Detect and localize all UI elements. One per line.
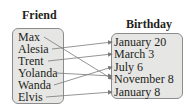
arrow-trent [48, 54, 112, 61]
arrow-wanda [54, 67, 112, 85]
arrow-elvis [46, 92, 112, 97]
arrow-alesia [52, 42, 112, 49]
mapping-arrows [0, 0, 190, 111]
